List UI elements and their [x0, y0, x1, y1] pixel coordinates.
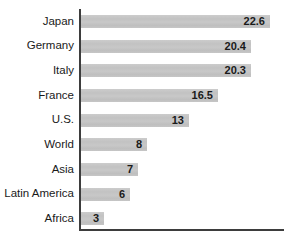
- value-label: 6: [119, 189, 130, 200]
- category-label: Germany: [0, 40, 79, 52]
- category-label: World: [0, 139, 79, 151]
- bar-area: 3: [79, 212, 286, 225]
- chart-rows: Japan 22.6 Germany 20.4 Italy 20.3 Franc…: [0, 9, 286, 231]
- value-label: 20.4: [225, 41, 251, 52]
- chart-row: U.S. 13: [0, 108, 286, 133]
- chart-row: Latin America 6: [0, 182, 286, 207]
- value-label: 22.6: [244, 16, 270, 27]
- y-axis-line: [79, 9, 81, 231]
- category-label: France: [0, 90, 79, 102]
- value-label: 3: [93, 213, 104, 224]
- chart-row: Asia 7: [0, 157, 286, 182]
- bar-area: 7: [79, 163, 286, 176]
- bar-area: 20.3: [79, 64, 286, 77]
- category-label: U.S.: [0, 114, 79, 126]
- category-label: Latin America: [0, 188, 79, 200]
- bar-area: 6: [79, 188, 286, 201]
- bar: 16.5: [79, 89, 218, 102]
- chart-row: Japan 22.6: [0, 9, 286, 34]
- bar-area: 22.6: [79, 15, 286, 28]
- chart-row: Italy 20.3: [0, 58, 286, 83]
- bar-area: 8: [79, 138, 286, 151]
- bar: 6: [79, 188, 130, 201]
- bar: 8: [79, 138, 147, 151]
- chart-row: Africa 3: [0, 206, 286, 231]
- bar: 20.3: [79, 64, 251, 77]
- value-label: 8: [136, 139, 147, 150]
- bar-area: 20.4: [79, 40, 286, 53]
- x-axis-line: [79, 229, 284, 231]
- value-label: 13: [172, 115, 189, 126]
- bar-area: 13: [79, 114, 286, 127]
- bar: 20.4: [79, 40, 251, 53]
- bar: 7: [79, 163, 138, 176]
- value-label: 20.3: [225, 65, 251, 76]
- category-label: Italy: [0, 65, 79, 77]
- category-label: Asia: [0, 164, 79, 176]
- bar: 13: [79, 114, 189, 127]
- chart-row: France 16.5: [0, 83, 286, 108]
- chart-row: World 8: [0, 132, 286, 157]
- value-label: 7: [127, 164, 138, 175]
- category-label: Japan: [0, 16, 79, 28]
- value-label: 16.5: [192, 90, 218, 101]
- bar-area: 16.5: [79, 89, 286, 102]
- horizontal-bar-chart: Japan 22.6 Germany 20.4 Italy 20.3 Franc…: [0, 0, 286, 239]
- bar: 22.6: [79, 15, 270, 28]
- bar: 3: [79, 212, 104, 225]
- category-label: Africa: [0, 213, 79, 225]
- chart-row: Germany 20.4: [0, 34, 286, 59]
